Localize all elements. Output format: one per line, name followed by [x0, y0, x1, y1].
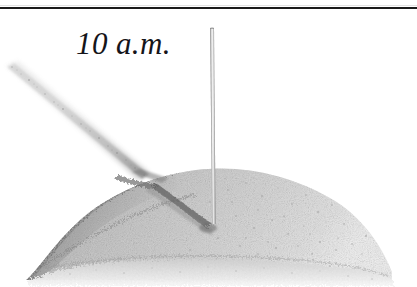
gnomon-stick: [205, 24, 221, 230]
time-caption: 10 a.m.: [76, 26, 171, 62]
top-rule: [0, 7, 417, 9]
sundial-figure: 10 a.m.: [0, 0, 417, 287]
top-rule-hairline: [0, 5, 417, 6]
